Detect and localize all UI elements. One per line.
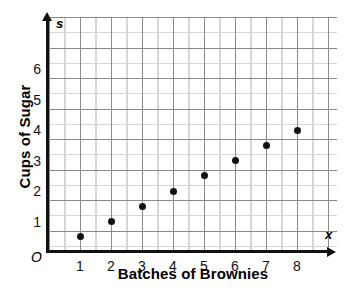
grid-minor-lines	[49, 17, 337, 252]
scatter-plot-figure: s x O 123456 12345678 Cups of Sugar Batc…	[0, 0, 344, 292]
x-axis-arrow-icon	[327, 247, 336, 257]
x-axis-variable-label: x	[325, 228, 332, 241]
y-axis-arrow-icon	[42, 12, 52, 21]
y-axis-variable-label: s	[56, 17, 63, 30]
data-point	[139, 203, 146, 210]
data-point	[77, 233, 84, 240]
y-axis-title: Cups of Sugar	[16, 47, 33, 227]
x-axis-title: Batches of Brownies	[49, 265, 337, 282]
data-point	[232, 157, 239, 164]
data-point	[201, 172, 208, 179]
origin-label: O	[31, 250, 42, 264]
data-point	[170, 188, 177, 195]
grid-major-lines	[49, 17, 337, 252]
y-axis-line	[46, 20, 49, 253]
data-point	[263, 142, 270, 149]
x-axis-line	[46, 250, 329, 253]
data-point	[294, 127, 301, 134]
data-point	[108, 218, 115, 225]
plot-area	[49, 17, 337, 252]
